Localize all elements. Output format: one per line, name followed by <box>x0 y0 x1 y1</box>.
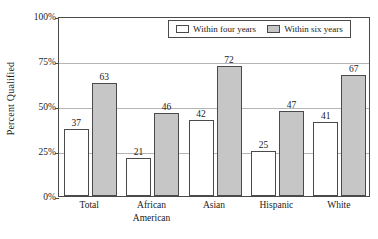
bar <box>279 111 304 196</box>
x-axis-category-label: White <box>299 199 378 212</box>
bar <box>217 66 242 196</box>
x-axis-label-line1: Hispanic <box>260 200 294 210</box>
x-axis-label-line1: African <box>137 200 166 210</box>
bar-chart-figure: Percent Qualified 0%25%50%75%100% 376321… <box>0 0 378 239</box>
bar-value-label: 72 <box>209 55 249 65</box>
legend-label-within-six-years: Within six years <box>284 24 343 34</box>
bar <box>126 158 151 196</box>
y-axis-tick-label: 50% <box>22 102 56 112</box>
bar-value-label: 25 <box>243 140 283 150</box>
y-axis-title-text: Percent Qualified <box>6 62 17 136</box>
legend-item-within-six-years: Within six years <box>267 24 343 34</box>
y-axis-tick-label: 75% <box>22 57 56 67</box>
x-axis-label-line1: White <box>327 200 350 210</box>
bars-layer: 37632146427225474167 <box>59 18 369 196</box>
bar-value-label: 63 <box>84 72 124 82</box>
bar <box>251 151 276 196</box>
x-axis-label-line1: Total <box>80 200 99 210</box>
x-axis-label-line1: Asian <box>203 200 225 210</box>
bar <box>64 129 89 196</box>
y-axis-tick-label: 100% <box>22 12 56 22</box>
bar <box>341 75 366 196</box>
chart-legend: Within four years Within six years <box>168 20 351 38</box>
gray-swatch-icon <box>267 25 280 33</box>
bar <box>154 113 179 196</box>
x-axis-category-labels: TotalAfricanAmericanAsianHispanicWhite <box>58 199 370 239</box>
y-axis-tick-label: 25% <box>22 147 56 157</box>
bar-value-label: 47 <box>271 100 311 110</box>
bar-value-label: 42 <box>181 109 221 119</box>
plot-area: 37632146427225474167 <box>58 17 370 197</box>
x-axis-label-line2: American <box>112 212 192 225</box>
legend-label-within-four-years: Within four years <box>193 24 256 34</box>
bar <box>189 120 214 196</box>
bar-value-label: 41 <box>306 111 346 121</box>
y-axis-title: Percent Qualified <box>0 0 22 197</box>
bar-value-label: 67 <box>334 64 374 74</box>
legend-item-within-four-years: Within four years <box>176 24 256 34</box>
bar-value-label: 37 <box>56 118 96 128</box>
white-swatch-icon <box>176 25 189 33</box>
bar-value-label: 21 <box>119 147 159 157</box>
bar <box>313 122 338 196</box>
bar <box>92 83 117 196</box>
